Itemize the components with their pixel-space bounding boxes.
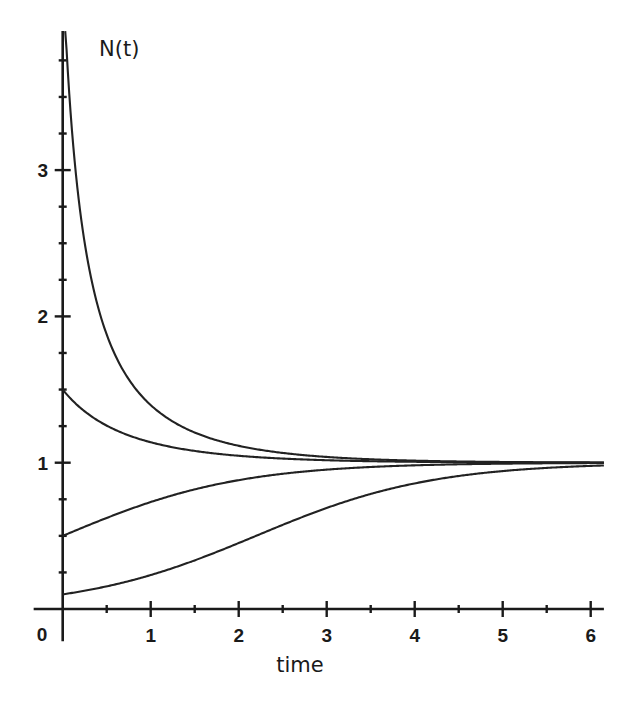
y-axis-title: N(t) [99, 37, 139, 61]
curve-n0-4 [65, 31, 604, 462]
curves [63, 31, 604, 594]
x-tick-label: 6 [585, 625, 596, 646]
y-tick-label: 3 [37, 160, 48, 181]
x-tick-label: 2 [233, 625, 244, 646]
x-tick-label: 3 [321, 625, 332, 646]
x-tick-label: 4 [409, 625, 420, 646]
origin-label: 0 [37, 624, 48, 645]
x-tick-label: 1 [145, 625, 156, 646]
curve-n0-0-5 [63, 463, 604, 536]
curve-n0-1-5 [63, 390, 604, 463]
ticks [55, 60, 591, 617]
tick-labels: 123456123 [37, 160, 596, 646]
logistic-growth-chart: 123456123 N(t) time 0 [0, 0, 626, 704]
y-tick-label: 1 [37, 453, 48, 474]
y-tick-label: 2 [37, 306, 48, 327]
x-tick-label: 5 [497, 625, 508, 646]
curve-n0-0-1 [63, 465, 604, 594]
axes [34, 31, 604, 641]
x-axis-title: time [276, 653, 323, 677]
